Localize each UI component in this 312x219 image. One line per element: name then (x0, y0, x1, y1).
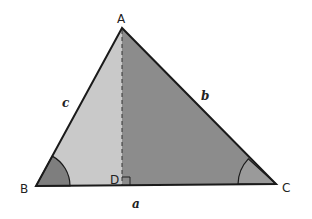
triangle-diagram: A B C D c b a (0, 0, 312, 219)
label-vertex-b: B (20, 182, 28, 196)
label-side-b: b (201, 89, 209, 103)
label-side-a: a (132, 197, 140, 211)
label-vertex-c: C (282, 181, 290, 195)
label-side-c: c (62, 96, 70, 110)
label-point-d: D (110, 173, 119, 187)
label-vertex-a: A (117, 12, 126, 26)
